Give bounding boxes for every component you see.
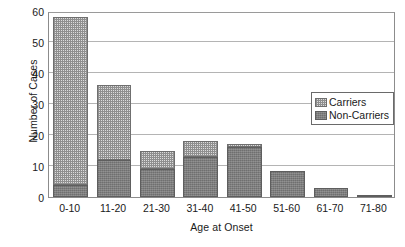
bar-segment-carriers: [97, 85, 132, 159]
bar-segment-non-carriers: [227, 147, 262, 197]
bar-group: [270, 171, 305, 197]
x-tick-label: 61-70: [308, 202, 351, 214]
x-tick-label: 0-10: [48, 202, 91, 214]
y-tick-label: 60: [14, 7, 44, 17]
x-tick-label: 21-30: [135, 202, 178, 214]
x-tick-label: 71-80: [352, 202, 395, 214]
bar-segment-non-carriers: [183, 157, 218, 197]
x-tick-label: 31-40: [178, 202, 221, 214]
bar-segment-non-carriers: [270, 171, 305, 197]
bar-segment-carriers: [227, 144, 262, 147]
legend-swatch-carriers: [315, 98, 327, 107]
bar-group: [314, 188, 349, 197]
chart-legend: CarriersNon-Carriers: [311, 92, 394, 125]
y-tick-label: 20: [14, 131, 44, 141]
bar-group: [183, 141, 218, 197]
y-axis-tick-labels: 0102030405060: [14, 0, 44, 247]
legend-label: Non-Carriers: [329, 110, 389, 121]
bar-segment-non-carriers: [314, 188, 349, 197]
y-tick-label: 50: [14, 38, 44, 48]
legend-item: Carriers: [315, 96, 389, 108]
bar-segment-carriers: [140, 151, 175, 170]
legend-swatch-non-carriers: [315, 111, 327, 120]
bar-group: [53, 17, 88, 197]
x-tick-label: 11-20: [91, 202, 134, 214]
legend-label: Carriers: [329, 97, 366, 108]
bar-chart: Number of Cases 0102030405060 0-1011-202…: [0, 0, 405, 247]
x-tick-label: 41-50: [222, 202, 265, 214]
bar-group: [140, 151, 175, 198]
bar-segment-non-carriers: [53, 185, 88, 197]
bar-segment-non-carriers: [357, 195, 392, 197]
bar-segment-non-carriers: [140, 169, 175, 197]
bar-segment-non-carriers: [97, 160, 132, 197]
bar-group: [227, 144, 262, 197]
bar-group: [357, 195, 392, 197]
y-tick-label: 40: [14, 69, 44, 79]
x-tick-label: 51-60: [265, 202, 308, 214]
x-axis-title: Age at Onset: [48, 221, 395, 233]
legend-item: Non-Carriers: [315, 109, 389, 121]
x-axis-tick-labels: 0-1011-2021-3031-4041-5051-6061-7071-80: [48, 202, 395, 218]
y-tick-label: 0: [14, 193, 44, 203]
y-tick-label: 10: [14, 162, 44, 172]
y-tick-label: 30: [14, 100, 44, 110]
bar-segment-carriers: [183, 141, 218, 157]
bar-segment-carriers: [53, 17, 88, 184]
bar-group: [97, 85, 132, 197]
